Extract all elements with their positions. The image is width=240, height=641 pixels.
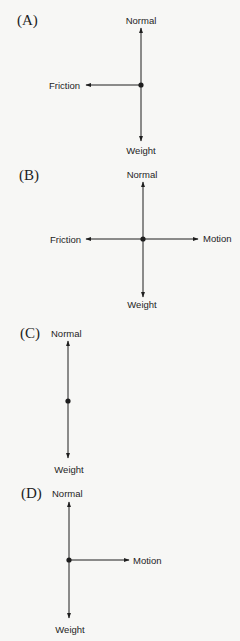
weight-label-d: Weight	[55, 624, 84, 635]
weight-label-a: Weight	[126, 145, 155, 156]
friction-label-a: Friction	[49, 80, 80, 91]
free-body-arrows	[0, 0, 240, 641]
diagram-c-arrows	[65, 341, 70, 458]
diagram-a-arrows	[86, 28, 144, 141]
normal-label-c: Normal	[51, 328, 82, 339]
normal-label-d: Normal	[52, 488, 83, 499]
option-label-a: (A)	[17, 12, 38, 28]
weight-label-b: Weight	[127, 299, 156, 310]
object-dot-c	[65, 398, 70, 403]
object-dot-d	[66, 557, 71, 562]
option-label-c: (C)	[20, 325, 40, 341]
normal-label-b: Normal	[127, 169, 158, 180]
diagram-b-arrows	[86, 182, 198, 297]
diagram-d-arrows	[66, 502, 129, 618]
weight-label-c: Weight	[54, 464, 83, 475]
friction-label-b: Friction	[50, 234, 81, 245]
option-label-d: (D)	[21, 485, 42, 501]
motion-label-d: Motion	[133, 555, 162, 566]
object-dot-a	[138, 82, 143, 87]
motion-label-b: Motion	[203, 233, 232, 244]
normal-label-a: Normal	[126, 15, 157, 26]
object-dot-b	[140, 236, 145, 241]
option-label-b: (B)	[19, 167, 39, 183]
